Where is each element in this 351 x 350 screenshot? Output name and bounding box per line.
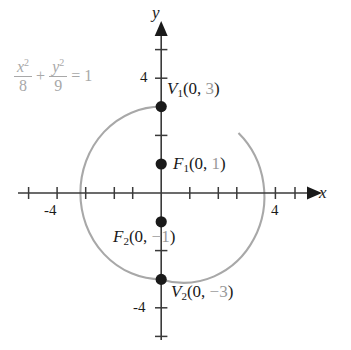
equation-y-denominator: 9 (51, 77, 65, 94)
equation-y-numerator: y2 (49, 58, 67, 76)
x-tick-label-neg4: -4 (44, 203, 57, 218)
equation-equals-one: = 1 (70, 67, 93, 85)
y-tick-label-neg4: -4 (133, 300, 146, 315)
label-f2: F2(0, −1) (113, 228, 175, 247)
label-f1: F1(0, 1) (173, 155, 226, 174)
point-v1 (156, 101, 167, 112)
y-axis-arrow (155, 21, 168, 36)
equation-x-denominator: 8 (16, 77, 30, 94)
point-v2 (156, 274, 167, 285)
equation-fraction-x: x2 8 (14, 58, 32, 94)
label-v2: V2(0, −3) (171, 283, 233, 302)
point-f2 (156, 216, 167, 227)
label-v1: V1(0, 3) (167, 80, 220, 99)
ellipse-equation: x2 8 + y2 9 = 1 (14, 58, 93, 94)
x-axis-label: x (319, 184, 327, 201)
y-tick-label-4: 4 (140, 70, 148, 85)
point-f1 (156, 158, 167, 169)
y-axis-label: y (152, 4, 160, 21)
equation-x-numerator: x2 (14, 58, 32, 76)
equation-plus-sign: + (35, 67, 46, 85)
equation-fraction-y: y2 9 (49, 58, 67, 94)
x-tick-label-4: 4 (271, 203, 279, 218)
ellipse-figure: x2 8 + y2 9 = 1 x y 4 -4 -4 4 V1(0, 3) F… (0, 0, 351, 350)
